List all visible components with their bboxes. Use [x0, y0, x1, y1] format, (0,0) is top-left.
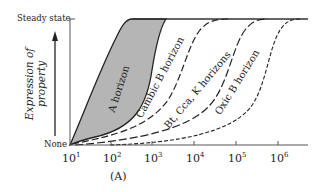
soil-horizon-development-diagram: 101 102 103 104 105 106 (A) Steady state…: [0, 0, 320, 192]
x-tick-label-6: 106: [270, 151, 289, 165]
y-bottom-label: None: [44, 139, 67, 149]
panel-label: (A): [110, 170, 127, 183]
x-tick-label-2: 102: [103, 151, 121, 165]
y-title-line2: property: [35, 60, 47, 107]
y-top-label: Steady state: [17, 13, 71, 23]
x-tick-label-3: 103: [144, 151, 162, 165]
x-tick-label-4: 104: [186, 151, 205, 165]
x-tick-label-1: 101: [62, 151, 80, 165]
y-title-line1: Expression of: [23, 46, 35, 121]
x-ticks: [111, 141, 278, 145]
x-tick-label-5: 105: [228, 151, 246, 165]
arrow-up-icon: [52, 31, 58, 41]
